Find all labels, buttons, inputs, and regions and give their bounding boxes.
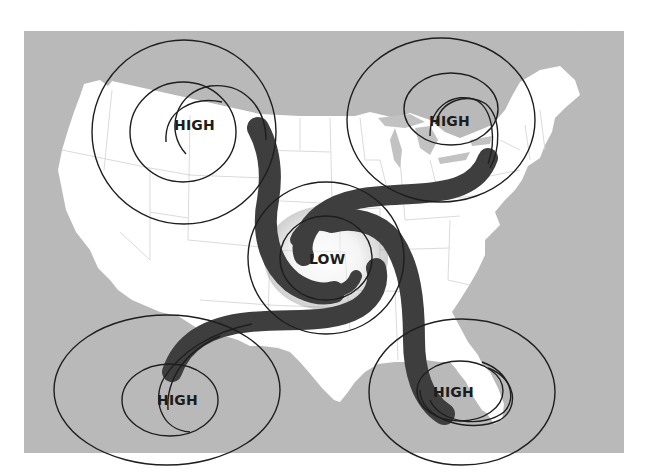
high-northeast-label: HIGH bbox=[429, 114, 470, 128]
high-southeast-label: HIGH bbox=[433, 385, 474, 399]
weather-map bbox=[0, 0, 646, 476]
high-southwest-label: HIGH bbox=[157, 393, 198, 407]
low-center-label: LOW bbox=[309, 252, 345, 266]
high-northwest-label: HIGH bbox=[174, 118, 215, 132]
